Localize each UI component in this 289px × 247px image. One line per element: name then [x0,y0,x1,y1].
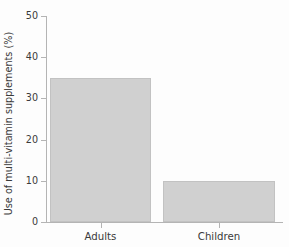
x-tick-mark [219,223,220,228]
x-tick-mark [101,223,102,228]
x-tick-label: Adults [41,231,161,243]
y-tick-mark [41,222,46,223]
bar-chart: Use of multi-vitamin supplements (%) 010… [0,0,289,247]
y-tick-label: 40 [26,52,38,62]
y-tick-label: 30 [26,93,38,103]
y-tick-label: 50 [26,11,38,21]
x-tick-label: Children [159,231,279,243]
y-tick-label: 10 [26,176,38,186]
bar [163,181,275,222]
bar [50,78,151,222]
x-axis-line [46,222,283,223]
y-axis-title: Use of multi-vitamin supplements (%) [0,0,16,247]
y-tick-label: 20 [26,135,38,145]
plot-area [46,16,283,222]
y-tick-label: 0 [32,217,38,227]
